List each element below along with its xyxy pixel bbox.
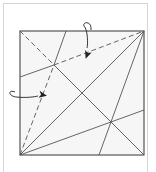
origami-crease-diagram — [0, 0, 156, 172]
